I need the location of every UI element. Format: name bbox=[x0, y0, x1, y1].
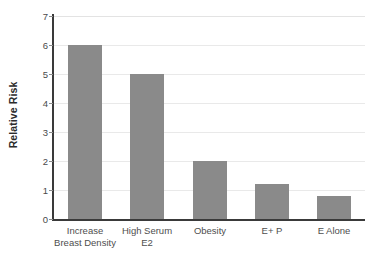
bar[interactable] bbox=[68, 45, 102, 219]
category-label-line1: E Alone bbox=[318, 225, 351, 236]
x-axis-category-labels: IncreaseBreast DensityHigh SerumE2Obesit… bbox=[54, 225, 365, 265]
y-axis-tick-labels: 76543210 bbox=[30, 16, 48, 219]
y-axis-tick-label: 1 bbox=[34, 185, 48, 196]
y-axis-title: Relative Risk bbox=[0, 0, 26, 230]
y-axis-tick-label: 7 bbox=[34, 11, 48, 22]
y-axis-tick-label: 4 bbox=[34, 98, 48, 109]
category-label-line2: E2 bbox=[109, 237, 185, 249]
y-axis-tick bbox=[49, 74, 53, 75]
plot-area bbox=[54, 16, 365, 219]
y-axis-tick-label: 6 bbox=[34, 40, 48, 51]
category-label-line1: E+ P bbox=[262, 225, 283, 236]
y-axis-tick-label: 5 bbox=[34, 69, 48, 80]
category-label-line1: High Serum bbox=[122, 225, 172, 236]
y-axis-title-label: Relative Risk bbox=[7, 82, 19, 149]
y-axis-tick-label: 0 bbox=[34, 214, 48, 225]
y-axis-tick bbox=[49, 45, 53, 46]
y-axis-tick bbox=[49, 190, 53, 191]
y-axis-tick bbox=[49, 16, 53, 17]
y-axis-tick bbox=[49, 103, 53, 104]
x-axis-line bbox=[52, 219, 365, 221]
bar[interactable] bbox=[130, 74, 164, 219]
y-axis-tick bbox=[49, 132, 53, 133]
y-axis-tick-label: 2 bbox=[34, 156, 48, 167]
bar[interactable] bbox=[317, 196, 351, 219]
y-axis-tick bbox=[49, 219, 53, 220]
x-axis-category-label: E Alone bbox=[296, 225, 372, 237]
bar[interactable] bbox=[193, 161, 227, 219]
category-label-line1: Obesity bbox=[194, 225, 226, 236]
gridline bbox=[54, 16, 365, 17]
bar-chart: Relative Risk 76543210 IncreaseBreast De… bbox=[0, 0, 378, 267]
y-axis-tick-label: 3 bbox=[34, 127, 48, 138]
category-label-line1: Increase bbox=[67, 225, 103, 236]
y-axis-tick bbox=[49, 161, 53, 162]
bar[interactable] bbox=[255, 184, 289, 219]
